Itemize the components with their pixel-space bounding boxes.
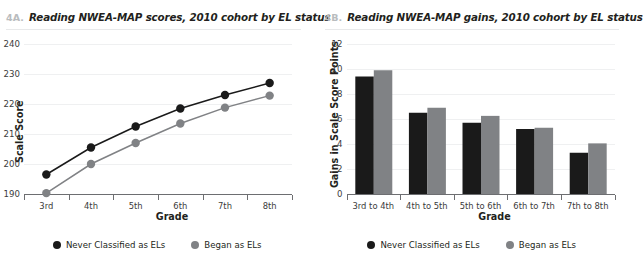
y-axis-tick-label: 240 — [0, 39, 20, 49]
panel-4a-x-axis-title: Grade — [52, 211, 292, 222]
data-point — [87, 143, 95, 151]
data-point — [265, 79, 273, 87]
data-point — [131, 139, 139, 147]
y-axis-tick-label: 0 — [327, 189, 343, 199]
x-axis-tick-label: 5th — [113, 201, 158, 211]
x-axis-tick-mark — [454, 195, 455, 200]
bar — [427, 108, 445, 194]
y-axis-tick-label: 6 — [327, 114, 343, 124]
panel-4a-figure-number: 4A. — [6, 12, 24, 23]
panel-4b-plot-area: 0246810123rd to 4th4th to 5th5th to 6th6… — [347, 44, 615, 194]
x-axis-tick-mark — [561, 195, 562, 200]
panel-4a-title-row: 4A. Reading NWEA-MAP scores, 2010 cohort… — [0, 11, 321, 23]
legend-label-never-classified: Never Classified as ELs — [66, 240, 165, 250]
x-axis-tick-label: 4th to 5th — [400, 201, 454, 211]
data-point — [221, 91, 229, 99]
y-axis-tick-label: 8 — [327, 89, 343, 99]
data-point — [42, 170, 50, 178]
legend-swatch-dark — [53, 241, 61, 249]
legend-item-never-classified: Never Classified as ELs — [367, 240, 479, 250]
data-point — [176, 119, 184, 127]
data-point — [87, 160, 95, 168]
x-axis-tick-label: 3rd — [24, 201, 69, 211]
y-axis-tick-label: 4 — [327, 139, 343, 149]
data-point — [131, 122, 139, 130]
data-point — [176, 104, 184, 112]
bar — [481, 116, 499, 194]
panel-4b-title-row: 4B. Reading NWEA-MAP gains, 2010 cohort … — [315, 11, 640, 23]
data-point — [221, 103, 229, 111]
bar — [516, 129, 534, 194]
x-axis-tick-mark — [247, 195, 248, 200]
y-axis-tick-label: 10 — [327, 64, 343, 74]
bar — [408, 113, 426, 194]
panel-4a-title-rule — [6, 29, 301, 30]
legend-label-began-as-els: Began as ELs — [519, 240, 576, 250]
bar — [534, 128, 552, 194]
x-axis-tick-mark — [203, 195, 204, 200]
bar — [569, 153, 587, 194]
y-axis-tick-label: 230 — [0, 69, 20, 79]
line-series-1 — [46, 96, 269, 194]
panel-4a: 4A. Reading NWEA-MAP scores, 2010 cohort… — [0, 0, 315, 258]
line-series-group — [24, 44, 292, 194]
x-axis-tick-label: 6th to 7th — [507, 201, 561, 211]
bar — [355, 77, 373, 195]
x-axis-tick-mark — [158, 195, 159, 200]
x-axis-tick-label: 7th — [203, 201, 248, 211]
panel-4a-plot-area: 1902002102202302403rd4th5th6th7th8th — [24, 44, 292, 194]
y-axis-tick-label: 12 — [327, 39, 343, 49]
x-axis-tick-mark — [507, 195, 508, 200]
panel-4b-legend: Never Classified as ELs Began as ELs — [315, 240, 630, 250]
x-axis-tick-mark — [292, 195, 293, 200]
bar — [373, 70, 391, 194]
y-axis-tick-label: 200 — [0, 159, 20, 169]
panel-4b-x-axis-title: Grade — [375, 211, 615, 222]
y-axis-tick-label: 220 — [0, 99, 20, 109]
x-axis-tick-label: 7th to 8th — [561, 201, 615, 211]
x-axis-line — [347, 194, 615, 195]
x-axis-tick-mark — [24, 195, 25, 200]
x-axis-tick-mark — [400, 195, 401, 200]
y-axis-tick-label: 2 — [327, 164, 343, 174]
x-axis-tick-label: 4th — [69, 201, 114, 211]
x-axis-tick-mark — [113, 195, 114, 200]
x-axis-tick-label: 6th — [158, 201, 203, 211]
legend-item-never-classified: Never Classified as ELs — [53, 240, 165, 250]
panel-4b-figure-number: 4B. — [325, 12, 343, 23]
panel-4b-title-rule — [325, 29, 620, 30]
x-axis-tick-label: 8th — [247, 201, 292, 211]
legend-label-began-as-els: Began as ELs — [204, 240, 261, 250]
y-axis-tick-label: 190 — [0, 189, 20, 199]
y-axis-tick-label: 210 — [0, 129, 20, 139]
legend-swatch-dark — [367, 241, 375, 249]
legend-swatch-gray — [506, 241, 514, 249]
x-axis-tick-label: 5th to 6th — [454, 201, 508, 211]
panel-4b: 4B. Reading NWEA-MAP gains, 2010 cohort … — [315, 0, 630, 258]
bar — [588, 143, 606, 194]
legend-item-began-as-els: Began as ELs — [506, 240, 576, 250]
legend-item-began-as-els: Began as ELs — [191, 240, 261, 250]
x-axis-tick-mark — [69, 195, 70, 200]
x-axis-tick-mark — [615, 195, 616, 200]
x-axis-tick-mark — [347, 195, 348, 200]
panel-4b-title: Reading NWEA-MAP gains, 2010 cohort by E… — [347, 11, 642, 23]
data-point — [265, 91, 273, 99]
bar-series-group — [347, 44, 615, 194]
legend-swatch-gray — [191, 241, 199, 249]
panel-4a-legend: Never Classified as ELs Began as ELs — [0, 240, 315, 250]
legend-label-never-classified: Never Classified as ELs — [380, 240, 479, 250]
x-axis-tick-label: 3rd to 4th — [347, 201, 401, 211]
data-point — [42, 189, 50, 197]
bar — [462, 123, 480, 194]
line-series-0 — [46, 83, 269, 175]
panel-4a-title: Reading NWEA-MAP scores, 2010 cohort by … — [29, 11, 330, 23]
